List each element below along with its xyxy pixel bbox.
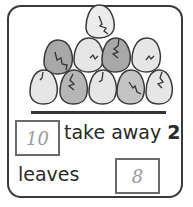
divider-line	[31, 111, 166, 114]
take-away-text: take away 2	[64, 121, 181, 143]
egg-icon	[89, 70, 116, 104]
egg-icon	[146, 70, 172, 104]
egg-icon	[30, 70, 57, 104]
result-answer: 8	[117, 160, 158, 192]
egg-icon	[44, 40, 72, 74]
start-answer: 10	[17, 122, 58, 154]
leaves-label: leaves	[18, 163, 79, 185]
egg-icon	[74, 38, 103, 72]
egg-icon	[132, 38, 160, 72]
egg-icon	[86, 5, 114, 38]
egg-pyramid: .egg{stroke:#3a3a3a;stroke-width:1.5} .c…	[0, 0, 193, 110]
egg-icon	[60, 70, 87, 104]
egg-icon	[117, 70, 144, 104]
start-answer-box[interactable]: 10	[15, 120, 60, 156]
take-away-label: take away	[64, 121, 161, 143]
take-away-value: 2	[167, 121, 180, 143]
result-answer-box[interactable]: 8	[115, 158, 160, 194]
egg-icon	[102, 38, 130, 72]
